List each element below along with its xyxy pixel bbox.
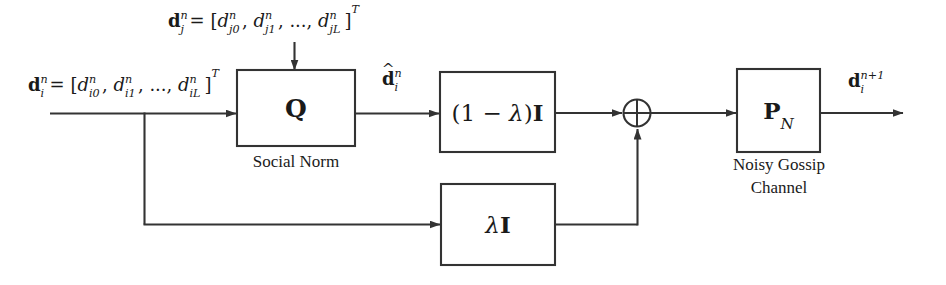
block-lambda-i-label: λI <box>441 184 555 265</box>
quantized-vector-label: ^dni <box>382 70 395 89</box>
block-diagram-figure: dnj= [dnj0, dnj1, ..., dnjL]T dni= [dni0… <box>0 0 946 285</box>
block-social-norm-label: Q <box>237 70 355 146</box>
input-vector-di-label: dni= [dni0, dni1, ..., dniL]T <box>28 76 219 95</box>
block-noisy-gossip-label: PN <box>737 69 820 152</box>
block-one-minus-lambda-label: (1 − λ)I <box>440 72 555 152</box>
input-vector-dj-label: dnj= [dnj0, dnj1, ..., dnjL]T <box>168 12 359 31</box>
output-vector-label: dn+1i <box>848 72 861 91</box>
block-noisy-gossip-caption-line1: Noisy Gossip <box>702 155 856 175</box>
block-social-norm-caption: Social Norm <box>217 152 375 172</box>
block-noisy-gossip-caption-line2: Channel <box>702 178 856 198</box>
